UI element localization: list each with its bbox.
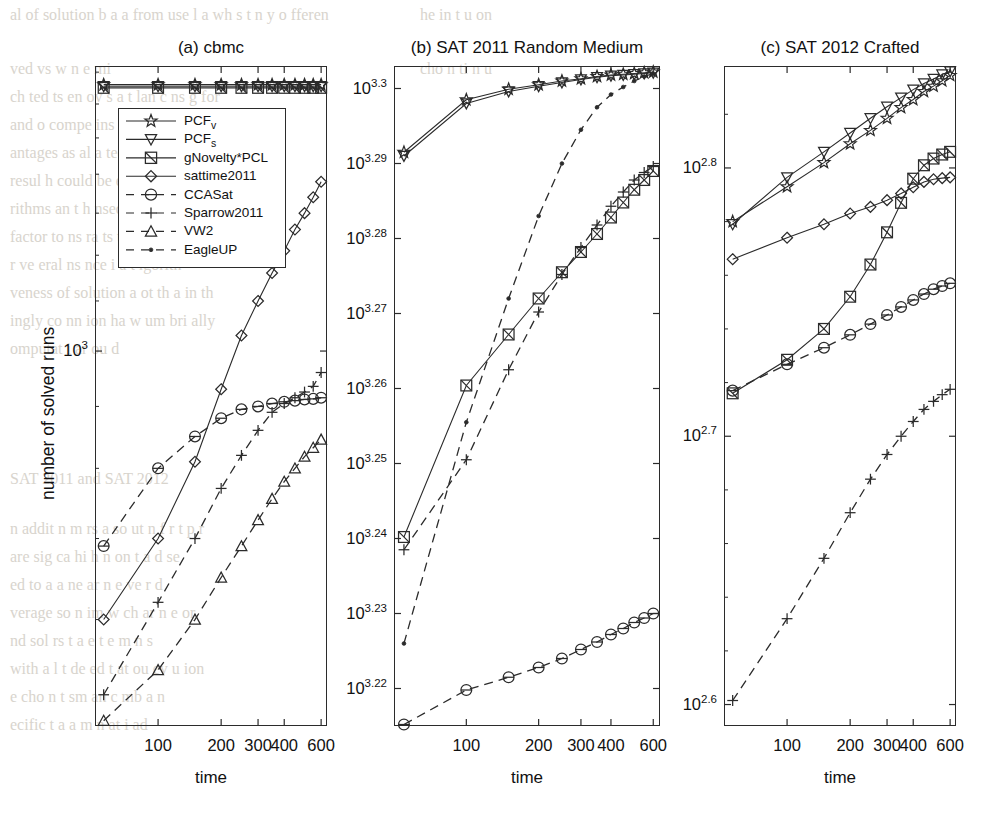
legend-item-PCF-s[interactable]	[126, 135, 176, 145]
legend-item-EagleUP[interactable]	[126, 248, 176, 252]
legend-label: Sparrow2011	[184, 203, 263, 223]
legend-label: CCASat	[184, 185, 233, 205]
legend-item-VW2[interactable]	[126, 226, 176, 236]
legend-item-PCF-v[interactable]	[126, 115, 176, 127]
legend-label: VW2	[184, 221, 213, 241]
legend-label: gNovelty*PCL	[184, 148, 268, 168]
legend-item-gNovelty-PCL[interactable]	[126, 152, 176, 163]
legend-label: sattime2011	[184, 166, 257, 186]
legend-item-CCASat[interactable]	[126, 189, 176, 200]
legend-symbols	[0, 0, 1006, 826]
legend-item-Sparrow2011[interactable]	[126, 207, 176, 218]
legend-item-sattime2011[interactable]	[126, 171, 176, 182]
figure-canvas: al of solution b a a from use l a wh s t…	[0, 0, 1006, 826]
legend-label: EagleUP	[184, 240, 237, 260]
